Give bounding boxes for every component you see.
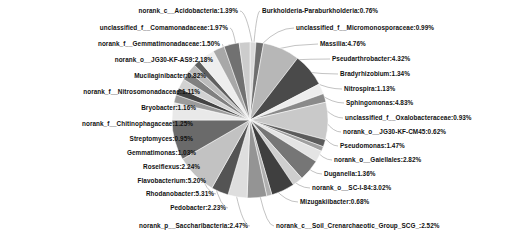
- pie-slice-label: norank_f__Gemmatimonadaceae:1.50%: [0, 40, 220, 48]
- pie-slice-label: Roseiflexus:2.24%: [0, 163, 200, 171]
- pie-slice-label: Duganella:1.36%: [324, 170, 376, 178]
- pie-slice-label: norank_o__JG30-KF-CM45:0.62%: [343, 128, 446, 136]
- pie-slice-label: Streptomyces:0.95%: [0, 135, 193, 143]
- pie-slice-label: Pedobacter:2.23%: [0, 204, 226, 212]
- pie-slice-label: norank_p__Saccharibacteria:2.47%: [0, 222, 248, 230]
- leader-line: [326, 122, 341, 132]
- pie-slice-label: Burkholderia-Paraburkholderia:0.76%: [262, 7, 378, 15]
- pie-slice-label: norank_o__Gaiellales:2.82%: [334, 156, 421, 164]
- pie-slice-label: Massilia:4.76%: [320, 40, 366, 48]
- pie-slice-label: Bradyrhizobium:1.34%: [340, 70, 410, 78]
- pie-slice-label: Mucilaginibacter:0.82%: [0, 72, 206, 80]
- pie-slice-label: norank_o__JG30-KF-AS9:2.18%: [0, 56, 213, 64]
- pie-slice-label: norank_f__Chitinophagaceae:1.25%: [0, 120, 193, 128]
- pie-slice-label: Rhodanobacter:5.31%: [0, 190, 214, 198]
- pie-slice-label: Flavobacterium:5.20%: [0, 177, 206, 185]
- pie-slices-group: [172, 42, 328, 198]
- leader-line: [260, 196, 274, 226]
- pie-slice-label: unclassified_f__Comamonadaceae:1.97%: [0, 24, 228, 32]
- pie-slice-label: Pseudomonas:1.47%: [340, 142, 405, 150]
- leader-line: [326, 110, 343, 118]
- pie-slice-label: unclassified_f__Oxalobacteraceae:0.93%: [345, 114, 472, 122]
- pie-slice-label: norank_f__Nitrosomonadaceae:1.11%: [0, 88, 200, 96]
- pie-slice-label: norank_c__Soil_Crenarchaeotic_Group_SCG_…: [276, 222, 440, 230]
- pie-slice-label: unclassified_f__Micromonosporaceae:0.99%: [296, 24, 434, 32]
- pie-slice-label: Pseudarthrobacter:4.32%: [332, 55, 410, 63]
- pie-chart-figure: norank_c__Acidobacteria:1.39%unclassifie…: [0, 0, 529, 244]
- leader-line: [262, 28, 294, 44]
- leader-line: [254, 11, 260, 42]
- pie-slice-label: norank_o__SC-I-84:3.02%: [312, 184, 391, 192]
- pie-slice-label: Gemmatimonas:1.03%: [0, 149, 196, 157]
- pie-slice-label: Sphingomonas:4.83%: [346, 99, 413, 107]
- leader-line: [240, 11, 252, 42]
- pie-slice-label: norank_c__Acidobacteria:1.39%: [0, 7, 238, 15]
- pie-slice-label: Mizugakiibacter:0.68%: [300, 198, 369, 206]
- pie-slice-label: Nitrospira:1.13%: [344, 85, 395, 93]
- pie-slice-label: Bryobacter:1.16%: [0, 104, 196, 112]
